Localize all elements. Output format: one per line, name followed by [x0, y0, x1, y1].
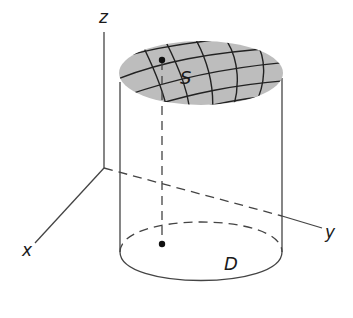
y-axis-hidden — [104, 168, 282, 216]
z-axis-label: z — [98, 7, 109, 27]
surface-point — [159, 57, 165, 63]
y-axis — [282, 216, 322, 228]
y-axis-label: y — [324, 222, 336, 242]
surface-s — [112, 36, 295, 118]
surface-label: S — [180, 67, 191, 88]
region-d-front-boundary — [120, 252, 282, 281]
cylinder — [120, 78, 282, 281]
region-point — [159, 241, 165, 247]
x-axis-label: x — [21, 240, 33, 260]
region-label: D — [224, 253, 238, 274]
region-d-back-boundary — [120, 222, 282, 252]
diagram-canvas: z x y S D — [0, 0, 353, 318]
x-axis — [35, 168, 104, 243]
